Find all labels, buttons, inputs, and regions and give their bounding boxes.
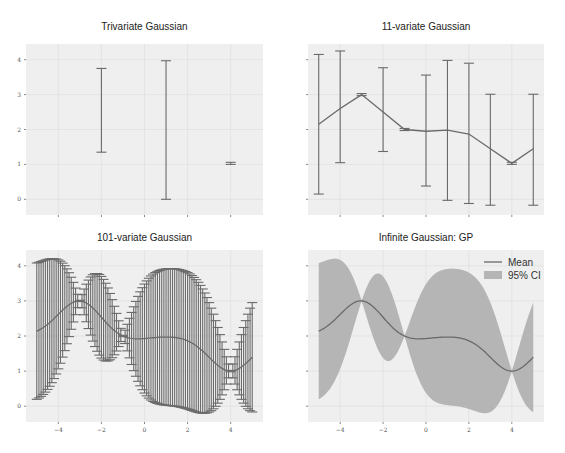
y-tick-label: 1 (17, 367, 21, 374)
x-tick-label: 0 (143, 426, 147, 433)
x-tick-label: 2 (186, 426, 190, 433)
y-tick-label: 2 (17, 332, 21, 339)
y-tick-label: 3 (17, 91, 21, 98)
x-tick-label: 2 (467, 426, 471, 433)
y-tick-label: 4 (17, 56, 21, 63)
y-tick-label: 4 (17, 262, 21, 269)
y-tick-label: 0 (17, 195, 21, 202)
plot-area: −4−2024Mean95% CI (306, 250, 544, 433)
101-variate-gaussian-panel: 101-variate Gaussian −4−202401234 (17, 232, 263, 433)
x-tick-label: −4 (336, 426, 345, 433)
plot-area: −4−202401234 (17, 250, 263, 433)
x-tick-label: −2 (379, 426, 388, 433)
figure: Trivariate Gaussian 01234 11-variate Gau… (0, 0, 565, 453)
y-tick-label: 2 (17, 126, 21, 133)
x-tick-label: −4 (54, 426, 63, 433)
infinite-gaussian-gp-panel: Infinite Gaussian: GP −4−2024Mean95% CI (306, 232, 544, 433)
y-tick-label: 3 (17, 297, 21, 304)
plot-area (306, 44, 544, 217)
legend-patch-swatch (484, 271, 502, 279)
legend-label: Mean (508, 257, 533, 268)
x-tick-label: 0 (424, 426, 428, 433)
y-tick-label: 0 (17, 402, 21, 409)
panel-title: Infinite Gaussian: GP (379, 232, 474, 243)
trivariate-gaussian-panel: Trivariate Gaussian 01234 (17, 21, 263, 217)
plot-area: 01234 (17, 44, 263, 217)
y-tick-label: 1 (17, 160, 21, 167)
x-tick-label: 4 (510, 426, 514, 433)
panel-title: 101-variate Gaussian (97, 232, 192, 243)
x-tick-label: 4 (229, 426, 233, 433)
x-tick-label: −2 (97, 426, 106, 433)
legend-label: 95% CI (508, 270, 541, 281)
11-variate-gaussian-panel: 11-variate Gaussian (306, 21, 544, 217)
panel-title: Trivariate Gaussian (101, 21, 187, 32)
panel-title: 11-variate Gaussian (382, 21, 471, 32)
